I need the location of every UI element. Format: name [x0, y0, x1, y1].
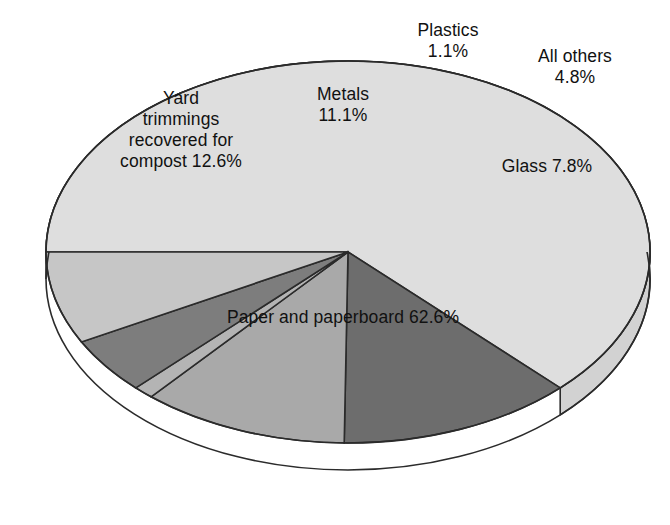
pie-label-all-others-name: All others [538, 46, 612, 66]
pie-label-plastics-name: Plastics [417, 20, 478, 40]
pie-label-paper-and-paperboard: Paper and paperboard 62.6% [178, 307, 508, 328]
pie-label-yard-line1: Yard [163, 88, 199, 108]
pie-label-all-others-value: 4.8% [555, 67, 595, 87]
pie-label-metals-name: Metals [317, 84, 369, 104]
pie-label-all-others: All others4.8% [500, 46, 650, 88]
pie-label-yard-trimmings: Yardtrimmingsrecovered forcompost 12.6% [86, 88, 276, 172]
pie-label-plastics: Plastics1.1% [388, 20, 508, 62]
pie-label-plastics-value: 1.1% [428, 41, 468, 61]
pie-label-yard-line2: trimmings [143, 109, 220, 129]
pie-label-yard-line4: compost 12.6% [120, 151, 242, 171]
pie-label-glass: Glass 7.8% [472, 156, 622, 177]
pie-label-yard-line3: recovered for [129, 130, 233, 150]
pie-label-metals: Metals11.1% [288, 84, 398, 126]
pie-chart: Plastics1.1% All others4.8% Metals11.1% … [0, 0, 670, 525]
pie-label-metals-value: 11.1% [319, 105, 368, 125]
